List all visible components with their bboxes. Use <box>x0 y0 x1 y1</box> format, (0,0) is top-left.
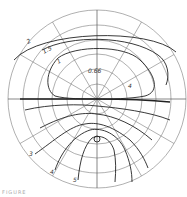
label-5: 5 <box>73 176 77 183</box>
label-3: 3 <box>29 150 33 157</box>
label-4-right: 4 <box>128 82 132 89</box>
polar-diagram: 2 1.5 1 0.66 4 3 4 5 <box>0 0 187 197</box>
figure-caption: FIGURE <box>2 189 27 195</box>
label-4: 4 <box>50 168 54 175</box>
label-0-66: 0.66 <box>88 67 102 74</box>
contour-upper-lower <box>25 105 170 120</box>
label-1: 1 <box>55 57 61 65</box>
contours <box>14 36 176 182</box>
label-2: 2 <box>25 37 32 45</box>
